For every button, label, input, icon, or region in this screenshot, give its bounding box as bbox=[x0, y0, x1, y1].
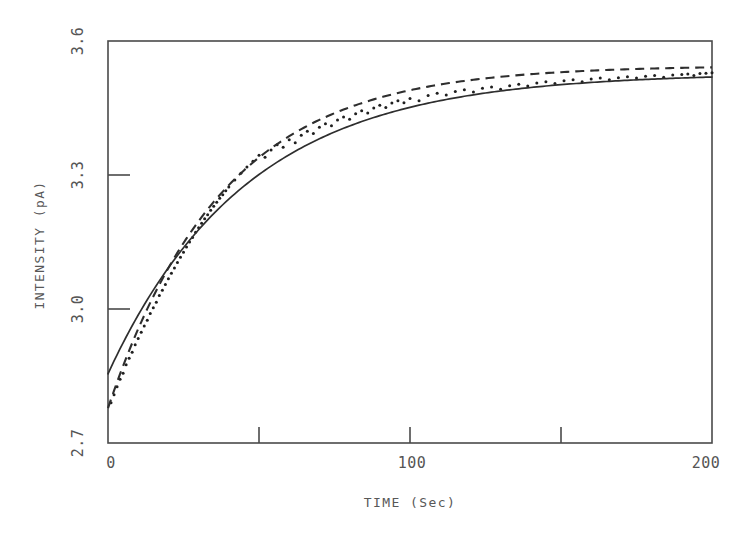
x-tick-labels: 0 100 200 bbox=[106, 454, 720, 472]
data-point bbox=[704, 72, 707, 75]
data-point bbox=[396, 99, 399, 102]
data-point bbox=[508, 84, 511, 87]
data-point bbox=[300, 134, 303, 137]
data-point bbox=[472, 90, 475, 93]
data-point bbox=[418, 99, 421, 102]
data-point bbox=[572, 78, 575, 81]
y-tick-label-3.0: 3.0 bbox=[69, 295, 87, 324]
data-point bbox=[282, 146, 285, 149]
data-point bbox=[445, 94, 448, 97]
data-point bbox=[155, 301, 158, 304]
data-point bbox=[270, 148, 273, 151]
data-point bbox=[372, 107, 375, 110]
data-point bbox=[544, 80, 547, 83]
data-point bbox=[617, 76, 620, 79]
fit-curve-solid bbox=[108, 77, 712, 374]
data-point bbox=[348, 118, 351, 121]
data-point bbox=[626, 75, 629, 78]
data-point bbox=[288, 138, 291, 141]
data-point bbox=[336, 119, 339, 122]
y-axis-title: INTENSITY (pA) bbox=[32, 180, 47, 309]
data-point bbox=[590, 77, 593, 80]
data-point bbox=[324, 122, 327, 125]
data-point bbox=[436, 92, 439, 95]
data-point bbox=[146, 319, 149, 322]
data-point bbox=[212, 205, 215, 208]
y-tick-label-3.3: 3.3 bbox=[69, 161, 87, 190]
x-axis-ticks bbox=[259, 427, 561, 443]
data-point bbox=[176, 261, 179, 264]
data-point bbox=[161, 289, 164, 292]
data-point bbox=[179, 256, 182, 259]
y-axis-ticks bbox=[108, 175, 130, 309]
x-tick-label-0: 0 bbox=[106, 454, 116, 472]
data-point bbox=[312, 132, 315, 135]
data-point bbox=[182, 251, 185, 254]
data-point bbox=[258, 154, 261, 157]
data-point bbox=[152, 306, 155, 309]
data-point bbox=[711, 71, 714, 74]
data-point bbox=[390, 102, 393, 105]
data-point bbox=[454, 90, 457, 93]
data-point bbox=[366, 111, 369, 114]
data-point bbox=[563, 79, 566, 82]
data-point bbox=[671, 73, 674, 76]
data-point bbox=[264, 156, 267, 159]
data-point bbox=[535, 81, 538, 84]
data-point bbox=[122, 372, 125, 375]
data-point bbox=[170, 272, 173, 275]
data-point bbox=[164, 283, 167, 286]
data-point bbox=[294, 141, 297, 144]
data-point bbox=[330, 124, 333, 127]
x-axis-title: TIME (Sec) bbox=[364, 495, 456, 510]
data-point bbox=[128, 357, 131, 360]
data-point bbox=[245, 165, 248, 168]
data-point bbox=[517, 83, 520, 86]
data-point bbox=[692, 74, 695, 77]
data-point bbox=[318, 126, 321, 129]
data-point bbox=[490, 86, 493, 89]
data-point bbox=[218, 197, 221, 200]
y-tick-label-3.6: 3.6 bbox=[69, 27, 87, 56]
data-point bbox=[209, 209, 212, 212]
data-point bbox=[125, 363, 128, 366]
data-point bbox=[306, 130, 309, 133]
data-point bbox=[686, 73, 689, 76]
data-point bbox=[402, 101, 405, 104]
data-point bbox=[134, 343, 137, 346]
data-point bbox=[149, 312, 152, 315]
data-point bbox=[680, 73, 683, 76]
data-point bbox=[206, 213, 209, 216]
data-point bbox=[342, 115, 345, 118]
data-point bbox=[384, 106, 387, 109]
fit-curve-dashed bbox=[108, 67, 712, 408]
data-point bbox=[360, 109, 363, 112]
data-point bbox=[698, 72, 701, 75]
plot-frame bbox=[108, 41, 712, 443]
y-tick-labels: 3.6 3.3 3.0 2.7 bbox=[69, 27, 87, 458]
scatter-points bbox=[110, 71, 714, 404]
data-point bbox=[481, 87, 484, 90]
figure-container: 3.6 3.3 3.0 2.7 0 100 200 INTENSITY (pA)… bbox=[0, 0, 748, 536]
data-point bbox=[653, 74, 656, 77]
x-tick-label-200: 200 bbox=[692, 454, 721, 472]
data-point bbox=[599, 77, 602, 80]
y-tick-label-2.7: 2.7 bbox=[69, 429, 87, 458]
chart-canvas: 3.6 3.3 3.0 2.7 0 100 200 INTENSITY (pA)… bbox=[0, 0, 748, 536]
data-point bbox=[378, 104, 381, 107]
data-point bbox=[167, 277, 170, 280]
data-point bbox=[427, 94, 430, 97]
data-series-layer bbox=[108, 67, 714, 408]
data-point bbox=[137, 337, 140, 340]
data-point bbox=[158, 294, 161, 297]
data-point bbox=[143, 324, 146, 327]
x-tick-label-100: 100 bbox=[398, 454, 427, 472]
data-point bbox=[644, 75, 647, 78]
data-point bbox=[215, 201, 218, 204]
data-point bbox=[463, 88, 466, 91]
data-point bbox=[173, 266, 176, 269]
data-point bbox=[203, 217, 206, 220]
data-point bbox=[140, 331, 143, 334]
data-point bbox=[354, 112, 357, 115]
data-point bbox=[409, 97, 412, 100]
